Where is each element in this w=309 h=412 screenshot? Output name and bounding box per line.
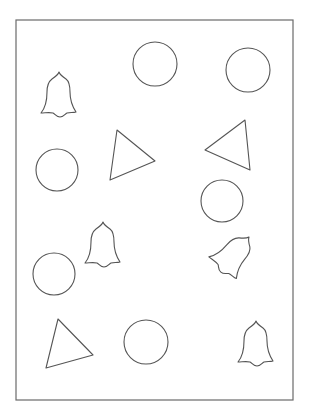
circle-shape-2 — [226, 48, 270, 92]
circle-shape-1 — [133, 42, 177, 86]
bell-icon-2 — [85, 222, 120, 267]
bell-icon-1 — [41, 72, 76, 117]
circle-shape-6 — [124, 320, 168, 364]
worksheet-canvas — [0, 0, 309, 412]
circle-shape-5 — [33, 253, 75, 295]
bell-icon-3 — [206, 225, 262, 282]
triangle-shape-3 — [46, 319, 93, 368]
circle-shape-3 — [36, 149, 78, 191]
triangle-shape-1 — [110, 130, 155, 180]
worksheet-frame — [16, 20, 293, 400]
shapes-group — [33, 42, 273, 368]
circle-shape-4 — [201, 180, 243, 222]
triangle-shape-2 — [205, 120, 250, 170]
bell-icon-4 — [238, 321, 273, 366]
